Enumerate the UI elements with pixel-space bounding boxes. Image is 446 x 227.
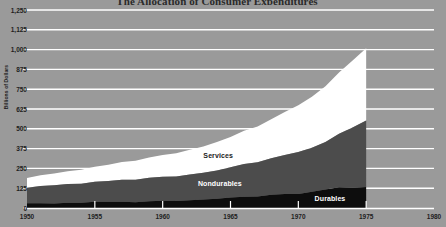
x-tick-label: 1980 <box>419 213 446 220</box>
y-tick-label: 1,000 <box>0 46 27 53</box>
y-tick-label: 375 <box>0 145 27 152</box>
y-tick-label: 750 <box>0 86 27 93</box>
y-tick-label: 875 <box>0 66 27 73</box>
series-label-durables: Durables <box>315 195 346 202</box>
x-tick-label: 1970 <box>283 213 313 220</box>
series-label-services: Services <box>203 152 233 159</box>
y-tick-label: 1,125 <box>0 26 27 33</box>
y-tick-label: 1,250 <box>0 7 27 14</box>
x-tick-label: 1975 <box>351 213 381 220</box>
y-tick-label: 250 <box>0 165 27 172</box>
y-tick-label: 500 <box>0 125 27 132</box>
x-tick-label: 1950 <box>12 213 42 220</box>
y-axis-ticks: 01252503755006257508751,0001,1251,250 <box>0 0 27 227</box>
y-tick-label: 625 <box>0 106 27 113</box>
x-tick-label: 1960 <box>148 213 178 220</box>
series-label-nondurables: Nondurables <box>198 180 242 187</box>
chart-title: The Allocation of Consumer Expenditures <box>0 0 434 5</box>
x-tick-label: 1965 <box>216 213 246 220</box>
x-tick-label: 1955 <box>80 213 110 220</box>
y-tick-label: 0 <box>0 205 27 212</box>
y-tick-label: 125 <box>0 185 27 192</box>
